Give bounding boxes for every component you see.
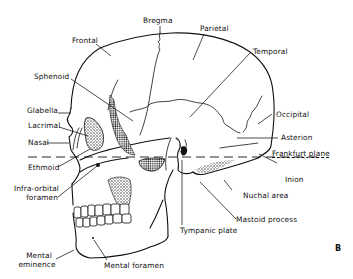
mastoid-process bbox=[176, 138, 193, 174]
label-mental-eminence: Mental bbox=[20, 252, 58, 259]
label-mental-eminence-2: eminence bbox=[16, 261, 58, 268]
label-mastoid-process: Mastoid process bbox=[236, 216, 297, 223]
sphenoid-shading bbox=[109, 95, 135, 155]
label-frontal: Frontal bbox=[72, 37, 98, 44]
figure-panel-letter: B bbox=[335, 245, 341, 253]
orbit-shading bbox=[84, 118, 103, 151]
zygomatic-shading bbox=[139, 158, 165, 171]
label-mental-foramen: Mental foramen bbox=[104, 262, 164, 269]
label-infra-orbital-foramen: foramen bbox=[14, 194, 58, 201]
squamosal-suture bbox=[130, 99, 240, 133]
coronal-suture bbox=[140, 33, 160, 135]
label-sphenoid: Sphenoid bbox=[34, 73, 69, 80]
mental-foramen bbox=[92, 237, 94, 239]
label-occipital: Occipital bbox=[276, 111, 309, 118]
lambdoid-suture bbox=[243, 96, 262, 132]
label-tympanic-plate: Tympanic plate bbox=[180, 227, 237, 234]
label-temporal: Temporal bbox=[253, 48, 288, 55]
skull-diagram: Bregma Parietal Frontal Temporal Sphenoi… bbox=[0, 0, 353, 279]
label-asterion: Asterion bbox=[281, 134, 312, 141]
label-ethmoid: Ethmoid bbox=[28, 164, 59, 171]
mandible-ramus bbox=[165, 170, 173, 236]
label-inion: Inion bbox=[285, 176, 304, 183]
teeth bbox=[74, 204, 131, 227]
label-bregma: Bregma bbox=[143, 17, 173, 24]
label-nuchal-area: Nuchal area bbox=[243, 192, 288, 199]
external-auditory-meatus bbox=[181, 146, 187, 155]
label-glabella: Glabella bbox=[27, 107, 58, 114]
maxilla-front bbox=[72, 184, 73, 205]
label-frankfurt-plane: Frankfurt plane bbox=[272, 150, 330, 157]
label-nasal: Nasal bbox=[28, 139, 49, 146]
label-infra-orbital: Infra-orbital bbox=[14, 185, 58, 192]
label-parietal: Parietal bbox=[200, 25, 229, 32]
label-lacrimal: Lacrimal bbox=[28, 122, 60, 129]
